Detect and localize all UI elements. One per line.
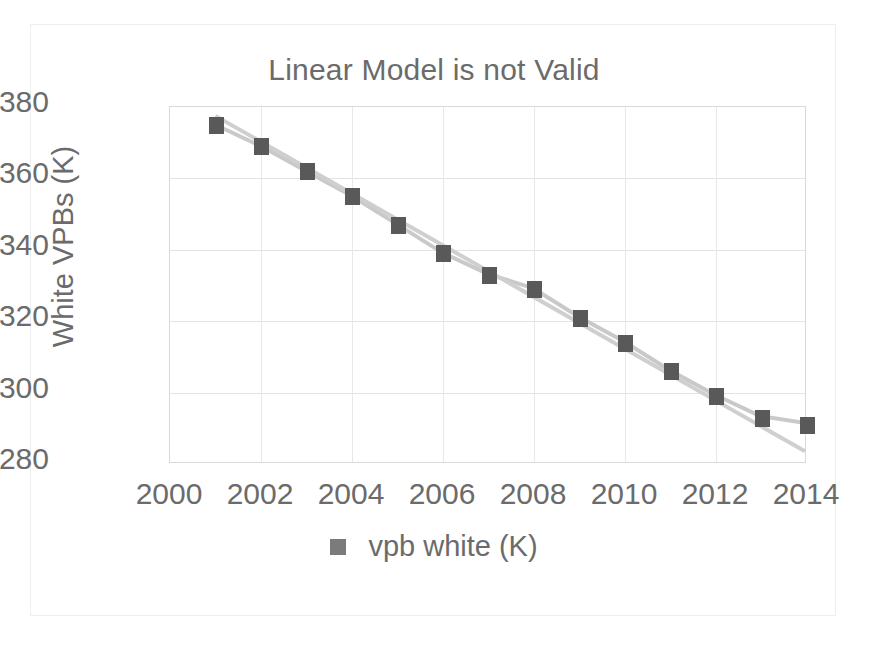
- data-point-marker[interactable]: [527, 281, 542, 298]
- data-point-marker[interactable]: [436, 245, 451, 262]
- chart-frame[interactable]: Linear Model is not Valid White VPBs (K)…: [30, 24, 836, 616]
- y-tick-label: 280: [0, 442, 49, 476]
- gridline-horizontal: [170, 321, 805, 322]
- legend-marker-icon: [330, 539, 346, 555]
- data-point-marker[interactable]: [254, 138, 269, 155]
- gridline-horizontal: [170, 250, 805, 251]
- y-tick-label: 300: [0, 371, 49, 405]
- y-axis-title: White VPBs (K): [47, 117, 80, 377]
- gridline-vertical: [352, 107, 353, 462]
- chart-legend[interactable]: vpb white (K): [31, 530, 837, 563]
- y-tick-label: 380: [0, 85, 49, 119]
- data-point-marker[interactable]: [209, 117, 224, 134]
- gridline-vertical: [716, 107, 717, 462]
- data-point-marker[interactable]: [573, 310, 588, 327]
- data-point-marker[interactable]: [618, 335, 633, 352]
- gridline-horizontal: [170, 178, 805, 179]
- data-point-marker[interactable]: [709, 388, 724, 405]
- chart-page: Linear Model is not Valid White VPBs (K)…: [0, 0, 869, 651]
- gridline-vertical: [625, 107, 626, 462]
- data-point-marker[interactable]: [391, 217, 406, 234]
- data-point-marker[interactable]: [345, 188, 360, 205]
- data-point-marker[interactable]: [482, 267, 497, 284]
- gridline-vertical: [261, 107, 262, 462]
- data-point-marker[interactable]: [664, 363, 679, 380]
- plot-area[interactable]: [169, 106, 806, 463]
- gridline-vertical: [443, 107, 444, 462]
- x-tick-label: 2014: [751, 477, 861, 511]
- chart-title: Linear Model is not Valid: [31, 53, 837, 87]
- y-tick-label: 360: [0, 156, 49, 190]
- y-tick-label: 320: [0, 299, 49, 333]
- line-layer: [170, 107, 805, 462]
- legend-label: vpb white (K): [368, 530, 537, 563]
- data-point-marker[interactable]: [800, 417, 815, 434]
- y-tick-label: 340: [0, 228, 49, 262]
- data-point-marker[interactable]: [300, 163, 315, 180]
- data-point-marker[interactable]: [755, 410, 770, 427]
